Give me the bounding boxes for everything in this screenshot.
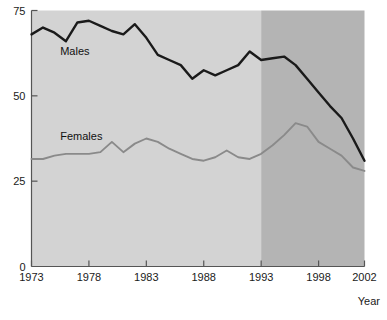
y-tick-label-25: 25	[13, 175, 25, 187]
line-chart: 0255075 1973197819831988199319982002 Mal…	[0, 0, 387, 320]
y-tick-label-75: 75	[13, 5, 25, 17]
series-label-males: Males	[60, 45, 90, 57]
x-tick-label-1998: 1998	[306, 271, 330, 283]
x-tick-label-1983: 1983	[134, 271, 158, 283]
y-tick-label-50: 50	[13, 90, 25, 102]
x-tick-label-2002: 2002	[352, 271, 376, 283]
x-tick-label-1993: 1993	[249, 271, 273, 283]
x-tick-label-1978: 1978	[77, 271, 101, 283]
x-tick-label-1973: 1973	[19, 271, 43, 283]
series-label-females: Females	[60, 130, 103, 142]
chart-container: 0255075 1973197819831988199319982002 Mal…	[0, 0, 387, 320]
x-axis-title: Year	[358, 295, 381, 307]
shaded-band-1	[261, 11, 364, 267]
x-tick-label-1988: 1988	[191, 271, 215, 283]
